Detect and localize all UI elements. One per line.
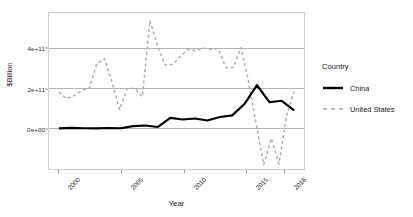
y-axis-ticks: 4e+11 2e+11 0e+00 (0, 0, 45, 217)
y-tick-label: 4e+11 (28, 45, 45, 52)
x-tick-label: 2018 (292, 176, 307, 191)
x-tick-label: 2015 (254, 176, 269, 191)
x-tick-label: 2005 (129, 176, 144, 191)
legend-item-china[interactable]: China (322, 80, 412, 96)
series-line-united-states (59, 21, 294, 165)
x-tick-label: 2000 (66, 176, 81, 191)
series-layer (59, 21, 294, 165)
chart-container: 4e+11 2e+11 0e+00 $Billion 2000 200 (0, 0, 413, 217)
x-tick-mark (184, 170, 185, 173)
legend-item-united-states[interactable]: United States (322, 101, 412, 117)
y-tick-label: 2e+11 (28, 85, 45, 92)
legend: Country China United States (322, 62, 412, 122)
y-tick-label: 0e+00 (27, 126, 45, 133)
x-tick-mark (58, 170, 59, 173)
legend-label-united-states: United States (350, 105, 394, 114)
legend-label-china: China (350, 84, 369, 93)
x-axis-title: Year (48, 199, 305, 208)
x-tick-label: 2010 (192, 176, 207, 191)
legend-title: Country (322, 62, 412, 71)
legend-key-dashed-line-icon (322, 103, 344, 115)
plot-svg (49, 13, 304, 169)
series-line-china (59, 85, 294, 128)
plot-panel (48, 12, 305, 170)
x-tick-mark (121, 170, 122, 173)
legend-key-solid-line-icon (322, 82, 344, 94)
x-tick-mark (284, 170, 285, 173)
y-axis-title: $Billion (5, 45, 14, 105)
x-tick-mark (246, 170, 247, 173)
